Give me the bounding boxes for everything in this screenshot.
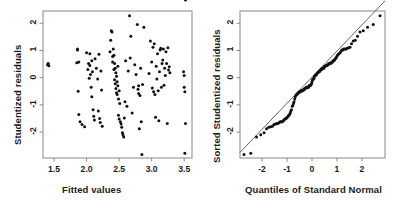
right-reference-line <box>240 1 385 153</box>
data-point <box>255 136 258 139</box>
right-x-tick-label: -2 <box>258 164 266 174</box>
right-x-tick-label: 2 <box>360 164 365 174</box>
right-y-tick-label: 2 <box>225 16 235 28</box>
data-point <box>354 39 357 42</box>
right-y-tick-label: 0 <box>225 71 235 83</box>
data-point <box>356 35 359 38</box>
right-y-tick-label: -2 <box>225 125 235 137</box>
y-axis-title-sorted-studentized-residuals: Sorted Studentized residuals <box>211 29 222 163</box>
panel-normal-qq: Quantiles of Standard Normal Sorted Stud… <box>0 0 411 208</box>
normal-qq-plot <box>0 0 411 208</box>
right-y-tick-label: -1 <box>225 98 235 110</box>
right-x-tick-label: 0 <box>310 164 315 174</box>
data-point <box>349 46 352 49</box>
data-point <box>379 14 382 17</box>
figure-canvas: Fitted values Studentized residuals 1.52… <box>0 0 411 208</box>
data-point <box>249 152 252 155</box>
data-point <box>243 153 246 156</box>
data-point <box>372 23 375 26</box>
right-x-tick-label: -1 <box>283 164 291 174</box>
data-point <box>290 108 293 111</box>
data-point <box>259 133 262 136</box>
data-point <box>359 30 362 33</box>
right-y-tick-label: 1 <box>225 43 235 55</box>
data-point <box>293 100 296 103</box>
x-axis-title-quantiles-standard-normal: Quantiles of Standard Normal <box>245 184 382 195</box>
data-point <box>366 26 369 29</box>
right-points <box>243 14 382 156</box>
data-point <box>350 42 353 45</box>
right-x-tick-label: 1 <box>335 164 340 174</box>
data-point <box>263 131 266 134</box>
data-point <box>362 29 365 32</box>
